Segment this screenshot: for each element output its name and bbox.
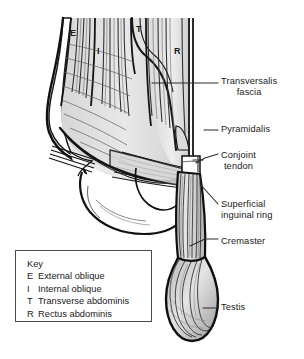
- muscle-marker-I: I: [97, 46, 100, 56]
- key-entry-letter: I: [27, 283, 38, 295]
- label-conjoint-tendon-line1: Conjoint: [221, 150, 256, 161]
- label-cremaster: Cremaster: [221, 236, 265, 247]
- label-conjoint-tendon-line2: tendon: [221, 161, 256, 172]
- key-entry-external-oblique: E External oblique: [27, 270, 151, 282]
- figure-root: E I T R Transversalis fascia Pyramidalis…: [0, 0, 304, 359]
- label-superficial-inguinal-ring: Superficial inguinal ring: [221, 199, 272, 220]
- key-entry-transverse-abdominis: T Transverse abdominis: [27, 295, 151, 307]
- muscle-marker-E: E: [70, 28, 76, 38]
- key-entry-term: Internal oblique: [38, 283, 151, 295]
- key-entry-term: Rectus abdominis: [38, 308, 151, 320]
- key-entry-letter: T: [27, 295, 38, 307]
- label-pyramidalis: Pyramidalis: [221, 124, 270, 135]
- label-testis: Testis: [221, 302, 245, 313]
- key-legend-box: Key E External oblique I Internal obliqu…: [15, 250, 152, 322]
- label-transversalis-fascia: Transversalis fascia: [221, 76, 277, 97]
- label-transversalis-fascia-line2: fascia: [221, 87, 277, 98]
- abdominal-wall-group: [47, 18, 193, 188]
- label-superficial-inguinal-ring-line2: inguinal ring: [221, 210, 272, 221]
- label-superficial-inguinal-ring-line1: Superficial: [221, 199, 272, 210]
- spermatic-cord-group: [166, 172, 218, 341]
- label-conjoint-tendon: Conjoint tendon: [221, 150, 256, 171]
- muscle-marker-T: T: [136, 24, 142, 34]
- label-pyramidalis-line1: Pyramidalis: [221, 124, 270, 135]
- key-entry-internal-oblique: I Internal oblique: [27, 283, 151, 295]
- key-title: Key: [27, 258, 151, 270]
- key-entry-letter: E: [27, 270, 38, 282]
- key-entry-term: Transverse abdominis: [38, 295, 151, 307]
- muscle-marker-R: R: [174, 46, 181, 56]
- label-testis-line1: Testis: [221, 302, 245, 313]
- key-entry-rectus-abdominis: R Rectus abdominis: [27, 308, 151, 320]
- label-cremaster-line1: Cremaster: [221, 236, 265, 247]
- key-entry-letter: R: [27, 308, 38, 320]
- key-entry-term: External oblique: [38, 270, 151, 282]
- label-transversalis-fascia-line1: Transversalis: [221, 76, 277, 87]
